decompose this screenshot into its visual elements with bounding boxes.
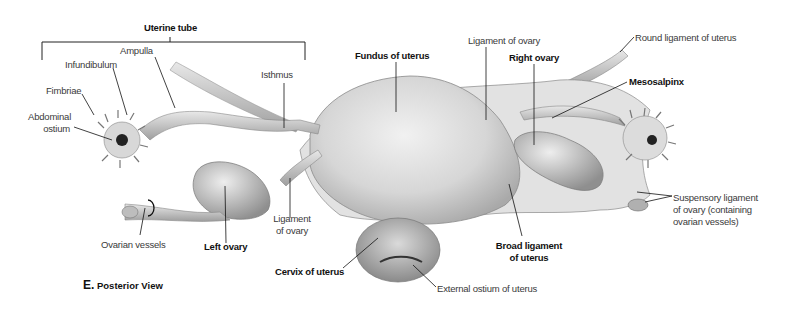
label-external-ostium: External ostium of uterus — [437, 283, 537, 295]
label-fundus-of-uterus: Fundus of uterus — [355, 50, 429, 62]
label-fimbriae: Fimbriae — [46, 85, 81, 97]
label-ligament-of-ovary-right: Ligament of ovary — [468, 35, 540, 47]
label-suspensory-line2: of ovary (containing — [673, 204, 758, 216]
label-ligament-of-ovary-left-line1: Ligament — [268, 213, 316, 225]
label-broad-ligament: Broad ligament of uterus — [494, 240, 564, 264]
label-broad-ligament-line2: of uterus — [494, 252, 564, 264]
ovarian-vessels-end-shape — [122, 206, 138, 218]
anatomy-illustration — [0, 0, 787, 309]
label-uterine-tube: Uterine tube — [144, 22, 197, 34]
left-fimbriae-shape — [98, 110, 148, 168]
label-suspensory-line1: Suspensory ligament — [673, 192, 758, 204]
label-cervix-of-uterus: Cervix of uterus — [275, 266, 344, 278]
label-suspensory-ligament: Suspensory ligament of ovary (containing… — [673, 192, 758, 228]
label-right-ovary: Right ovary — [509, 52, 559, 64]
label-ampulla: Ampulla — [120, 45, 153, 57]
label-abdominal-ostium-line2: ostium — [28, 123, 70, 135]
label-round-ligament: Round ligament of uterus — [635, 32, 736, 44]
label-abdominal-ostium: Abdominal ostium — [28, 111, 70, 135]
view-letter: E. — [83, 278, 94, 292]
uterine-tube-bracket — [42, 37, 305, 60]
label-broad-ligament-line1: Broad ligament — [494, 240, 564, 252]
label-ligament-of-ovary-left: Ligament of ovary — [268, 213, 316, 237]
label-abdominal-ostium-line1: Abdominal — [28, 111, 70, 123]
label-mesosalpinx: Mesosalpinx — [629, 76, 684, 88]
left-ovary-shape — [193, 162, 270, 219]
view-title: Posterior View — [97, 280, 163, 291]
left-uterine-tube-shape — [140, 111, 320, 140]
label-left-ovary: Left ovary — [204, 241, 247, 253]
label-infundibulum: Infundibulum — [65, 59, 117, 71]
suspensory-ligament-end-shape — [628, 199, 648, 211]
label-ligament-of-ovary-left-line2: of ovary — [268, 225, 316, 237]
label-suspensory-line3: ovarian vessels) — [673, 216, 758, 228]
label-ovarian-vessels: Ovarian vessels — [101, 239, 166, 251]
label-isthmus: Isthmus — [261, 69, 293, 81]
figure-view-caption: E. Posterior View — [83, 278, 163, 292]
cervix-shape — [356, 218, 440, 282]
